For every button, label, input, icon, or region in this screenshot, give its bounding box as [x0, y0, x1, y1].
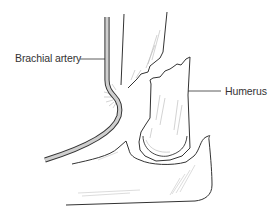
distal-fragment-shading: [146, 95, 182, 152]
anatomical-illustration: Brachial artery Humerus: [0, 0, 276, 213]
brachial-artery: [45, 17, 120, 160]
humerus-label: Humerus: [225, 85, 267, 97]
illustration-drawing: [0, 0, 276, 213]
brachial-artery-label: Brachial artery: [15, 52, 81, 64]
